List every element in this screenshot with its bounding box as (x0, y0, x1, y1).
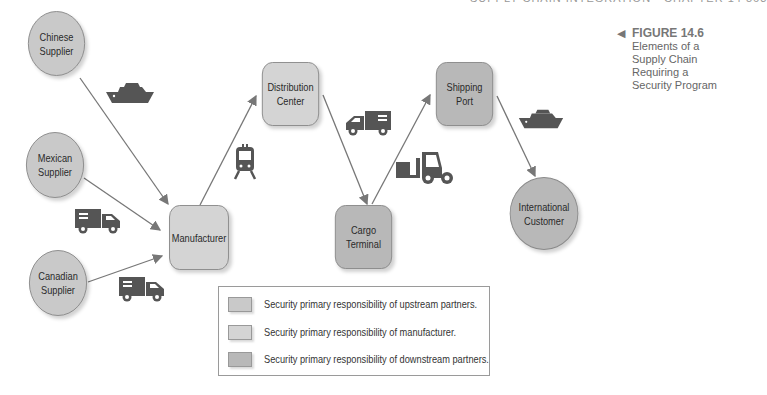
truck-icon (74, 208, 124, 234)
legend-swatch (228, 325, 252, 340)
figure-label: FIGURE 14.6 (632, 27, 722, 40)
caption-pointer-icon: ◀ (617, 27, 625, 40)
figure-title-line2: Requiring a Security Program (632, 66, 722, 92)
truck-icon (118, 276, 168, 302)
node-cargo-terminal: Cargo Terminal (335, 205, 392, 269)
figure-title-line1: Elements of a Supply Chain (632, 40, 722, 66)
forklift-icon (396, 150, 458, 186)
legend: Security primary responsibility of upstr… (218, 286, 490, 376)
node-manufacturer: Manufacturer (169, 205, 229, 270)
ship-icon (104, 82, 156, 104)
node-international-customer: International Customer (510, 177, 579, 250)
node-chinese-supplier: Chinese Supplier (28, 11, 85, 76)
node-mexican-supplier: Mexican Supplier (26, 132, 84, 198)
legend-item-downstream: Security primary responsibility of downs… (228, 350, 520, 368)
figure-caption: ◀ FIGURE 14.6 Elements of a Supply Chain… (632, 27, 722, 92)
train-icon (233, 144, 257, 180)
legend-swatch (228, 352, 252, 367)
truck-icon (342, 110, 392, 136)
ship-icon (517, 107, 565, 131)
node-distribution-center: Distribution Center (262, 62, 319, 126)
legend-swatch (228, 297, 252, 312)
node-shipping-port: Shipping Port (436, 62, 493, 126)
node-canadian-supplier: Canadian Supplier (29, 250, 87, 316)
legend-item-manufacturer: Security primary responsibility of manuf… (228, 323, 482, 341)
legend-item-upstream: Security primary responsibility of upstr… (228, 295, 506, 313)
